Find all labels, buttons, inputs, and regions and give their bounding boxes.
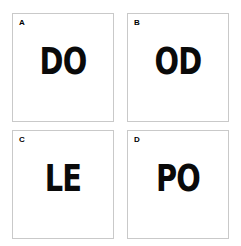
- panel-grid: A DO B OD C LE D PO: [12, 13, 229, 239]
- panel-word-d: PO: [139, 160, 217, 197]
- panel-word-a: DO: [24, 43, 102, 80]
- panel-label-d: D: [134, 136, 140, 144]
- panel-d: D PO: [127, 130, 229, 239]
- panel-a: A DO: [12, 13, 114, 122]
- panel-word-c: LE: [24, 160, 102, 197]
- panel-word-b: OD: [139, 43, 217, 80]
- panel-c: C LE: [12, 130, 114, 239]
- panel-label-c: C: [19, 136, 25, 144]
- panel-label-b: B: [134, 19, 140, 27]
- panel-label-a: A: [19, 19, 25, 27]
- panel-b: B OD: [127, 13, 229, 122]
